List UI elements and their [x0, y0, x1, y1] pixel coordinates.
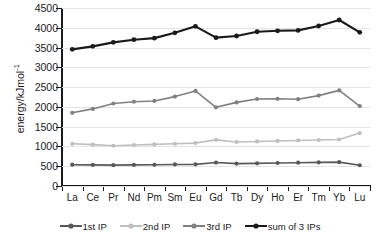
y-axis-tick-label: 500	[26, 161, 58, 171]
data-point	[255, 29, 260, 34]
y-axis-tick-mark	[56, 107, 61, 108]
x-axis-tick-label: Tb	[231, 192, 243, 204]
y-axis-tick-label: 2500	[26, 82, 58, 92]
x-axis-tick-mark	[329, 187, 330, 191]
series-layer	[62, 8, 370, 186]
series-1st-ip	[70, 160, 362, 167]
x-axis-tick-mark	[308, 187, 309, 191]
y-axis-tick-label: 4500	[26, 3, 58, 13]
data-point	[91, 107, 95, 111]
legend-label: sum of 3 IPs	[267, 221, 321, 232]
y-axis-tick-labels: 050010001500200025003000350040004500	[26, 8, 58, 186]
data-point	[193, 89, 197, 93]
data-point	[173, 95, 177, 99]
data-point	[234, 162, 238, 166]
data-point	[276, 97, 280, 101]
legend-label: 2nd IP	[142, 221, 170, 232]
x-axis-tick-label: Eu	[189, 192, 201, 204]
data-point	[90, 44, 95, 49]
data-point	[91, 163, 95, 167]
data-point	[131, 37, 136, 42]
data-point	[173, 162, 177, 166]
data-point	[358, 131, 362, 135]
data-point	[337, 88, 341, 92]
y-axis-tick-mark	[56, 166, 61, 167]
y-axis-tick-label: 4000	[26, 23, 58, 33]
data-point	[132, 143, 136, 147]
x-axis-tick-mark	[144, 187, 145, 191]
data-point	[337, 18, 342, 23]
data-point	[173, 30, 178, 35]
y-axis-tick-mark	[56, 48, 61, 49]
x-axis-tick-mark	[185, 187, 186, 191]
data-point	[214, 138, 218, 142]
x-axis-tick-label: Lu	[354, 192, 365, 204]
x-axis-tick-label: Pm	[147, 192, 162, 204]
x-axis-tick-label: Pr	[108, 192, 118, 204]
data-point	[275, 28, 280, 33]
x-axis-tick-mark	[349, 187, 350, 191]
figure-caption	[8, 236, 380, 244]
gridline	[62, 186, 370, 187]
data-point	[214, 160, 218, 164]
x-axis-tick-labels: LaCePrNdPmSmEuGdTbDyHoErTmYbLu	[62, 192, 370, 206]
data-point	[111, 144, 115, 148]
y-axis-tick-label: 3000	[26, 62, 58, 72]
data-point	[70, 163, 74, 167]
y-axis-tick-mark	[56, 87, 61, 88]
x-axis-tick-label: Dy	[251, 192, 263, 204]
legend-item[interactable]: 2nd IP	[120, 217, 170, 235]
data-point	[70, 142, 74, 146]
y-axis-title: energy/kJmol-1	[12, 34, 26, 164]
y-axis-title-exponent: -1	[12, 64, 21, 71]
data-point	[337, 137, 341, 141]
legend-item[interactable]: sum of 3 IPs	[245, 217, 321, 235]
data-point	[296, 161, 300, 165]
y-axis-tick-label: 1000	[26, 141, 58, 151]
legend-marker-icon	[183, 217, 205, 235]
legend-label: 1st IP	[82, 221, 107, 232]
data-point	[317, 160, 321, 164]
x-axis-tick-label: Ho	[271, 192, 284, 204]
data-point	[234, 100, 238, 104]
x-axis-tick-mark	[62, 187, 63, 191]
y-axis-tick-mark	[56, 67, 61, 68]
y-axis-tick-label: 3500	[26, 43, 58, 53]
data-point	[152, 142, 156, 146]
data-point	[214, 35, 219, 40]
data-point	[316, 24, 321, 29]
x-axis-tick-label: Tm	[311, 192, 325, 204]
x-axis-tick-mark	[165, 187, 166, 191]
data-point	[111, 163, 115, 167]
x-axis-tick-mark	[247, 187, 248, 191]
x-axis-tick-label: La	[67, 192, 78, 204]
data-point	[91, 142, 95, 146]
data-point	[255, 161, 259, 165]
data-point	[276, 161, 280, 165]
data-point	[193, 24, 198, 29]
legend-label: 3rd IP	[205, 221, 231, 232]
data-point	[276, 139, 280, 143]
data-point	[173, 142, 177, 146]
data-point	[152, 163, 156, 167]
data-point	[152, 36, 157, 41]
data-point	[317, 94, 321, 98]
x-axis-tick-mark	[288, 187, 289, 191]
legend-item[interactable]: 3rd IP	[183, 217, 231, 235]
data-point	[70, 111, 74, 115]
data-point	[70, 47, 75, 52]
data-point	[296, 97, 300, 101]
x-axis-tick-label: Ce	[86, 192, 99, 204]
data-point	[255, 97, 259, 101]
legend-marker-icon	[245, 217, 267, 235]
legend-item[interactable]: 1st IP	[60, 217, 107, 235]
y-axis-tick-mark	[56, 186, 61, 187]
plot-area	[62, 8, 370, 186]
data-point	[337, 160, 341, 164]
data-point	[358, 163, 362, 167]
data-point	[296, 138, 300, 142]
data-point	[214, 105, 218, 109]
x-axis-tick-label: Sm	[167, 192, 182, 204]
data-point	[111, 101, 115, 105]
data-point	[255, 139, 259, 143]
